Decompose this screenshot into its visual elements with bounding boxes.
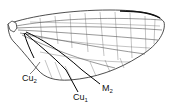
label-cu1-sub: 1 (85, 97, 88, 103)
label-cu1-base: Cu (73, 92, 85, 102)
label-cu1: Cu1 (73, 93, 88, 105)
label-cu2-sub: 2 (34, 78, 37, 84)
label-m2: M2 (102, 84, 113, 96)
label-m2-sub: 2 (110, 88, 113, 94)
label-cu2-base: Cu (22, 73, 34, 83)
wing-outline (8, 10, 164, 80)
label-cu2: Cu2 (22, 74, 37, 86)
wing-diagram (0, 0, 177, 106)
label-m2-base: M (102, 83, 110, 93)
